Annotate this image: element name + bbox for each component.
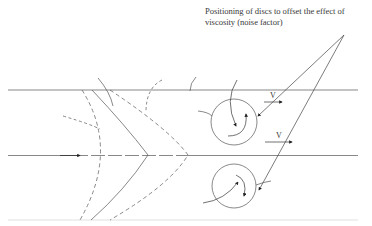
leader-line-lower	[259, 35, 344, 190]
velocity-upper: V	[264, 91, 282, 102]
leader-line-upper	[258, 35, 344, 116]
dashed-arc-left	[63, 116, 100, 129]
flow-diagram: V V	[0, 0, 372, 226]
velocity-label-upper: V	[270, 91, 276, 100]
arc-top-right	[190, 77, 196, 91]
velocity-label-lower: V	[276, 131, 282, 140]
dashed-arc-top	[146, 80, 162, 112]
dashed-front-right	[110, 90, 188, 220]
solid-arc-top	[98, 78, 113, 106]
